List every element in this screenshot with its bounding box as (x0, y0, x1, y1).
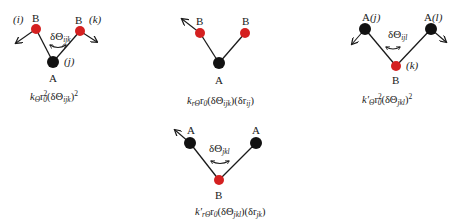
angle-arc-icon (211, 161, 229, 164)
formula: kΘr20(δΘijk)2 (30, 89, 78, 104)
index-label: (i) (13, 13, 24, 26)
atom-a (213, 57, 225, 69)
index-label: (k) (406, 59, 419, 72)
index-label: (k) (89, 13, 102, 26)
atom-label: A (215, 74, 223, 86)
atom-label: B (32, 12, 39, 24)
atom-b (240, 28, 250, 38)
atom-label: A (49, 72, 57, 84)
atom-label: A (252, 124, 260, 136)
atom-label: A(j) (362, 11, 381, 24)
atom-label: B (196, 15, 203, 27)
atom-label: B (392, 74, 399, 86)
formula: k′Θr20(δΘjkl)2 (362, 92, 412, 107)
angle-label: δΘijk (50, 30, 71, 44)
formula: krΘr0(δΘijk)(δrij) (187, 95, 254, 108)
angle-label: δΘjkl (209, 142, 230, 156)
index-label: (j) (64, 55, 75, 68)
panel-stretch-bend: B B A krΘr0(δΘijk)(δrij) (182, 15, 254, 108)
atom-label: B (242, 15, 249, 27)
panel-bend-ijk: (i) B B (k) δΘijk (j) A kΘr20(δΘijk)2 (13, 12, 102, 104)
atom-a (425, 23, 437, 35)
atom-b (391, 61, 401, 71)
atom-a (250, 137, 262, 149)
formula: k′rΘr0(δΘjkl)(δrjk) (195, 206, 266, 219)
atom-b (31, 24, 41, 34)
atom-label: B (75, 14, 82, 26)
atom-b (75, 26, 85, 36)
atom-label: A (187, 124, 195, 136)
angle-label: δΘijl (388, 28, 407, 42)
atom-b (214, 175, 224, 185)
atom-a (47, 56, 59, 68)
force-constant-diagram: (i) B B (k) δΘijk (j) A kΘr20(δΘijk)2 B … (0, 0, 464, 223)
panel-bend-jkl: A(j) A(l) δΘijl (k) B k′Θr20(δΘjkl)2 (352, 11, 446, 107)
atom-a (184, 137, 196, 149)
atom-a (359, 23, 371, 35)
atom-label: A(l) (424, 11, 443, 24)
panel-stretch-bend-prime: A A δΘjkl B k′rΘr0(δΘjkl)(δrjk) (175, 124, 266, 219)
atom-label: B (215, 189, 222, 201)
angle-arc-icon (50, 45, 66, 48)
angle-arc-icon (386, 47, 400, 49)
atom-b (195, 28, 205, 38)
